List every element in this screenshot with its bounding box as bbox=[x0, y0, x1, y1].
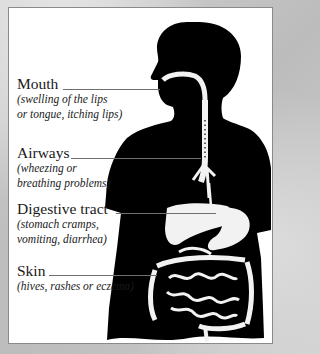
label-mouth-title: Mouth bbox=[17, 75, 122, 92]
rectum-shape bbox=[205, 326, 207, 342]
label-mouth-description: (swelling of the lips or tongue, itching… bbox=[17, 92, 122, 122]
label-digestive-tract: Digestive tract (stomach cramps, vomitin… bbox=[17, 200, 108, 247]
label-airways: Airways (wheezing or breathing problems) bbox=[17, 144, 110, 191]
label-digestive-tract-title: Digestive tract bbox=[17, 200, 108, 217]
diagram-panel: Mouth (swelling of the lips or tongue, i… bbox=[8, 7, 273, 344]
label-airways-title: Airways bbox=[17, 144, 110, 161]
label-mouth: Mouth (swelling of the lips or tongue, i… bbox=[17, 75, 122, 122]
label-airways-description: (wheezing or breathing problems) bbox=[17, 161, 110, 191]
label-digestive-tract-description: (stomach cramps, vomiting, diarrhea) bbox=[17, 217, 108, 247]
digestive-tract-leader-line bbox=[116, 213, 216, 214]
label-skin-title: Skin bbox=[17, 262, 134, 279]
label-skin-description: (hives, rashes or eczema) bbox=[17, 279, 134, 294]
label-skin: Skin (hives, rashes or eczema) bbox=[17, 262, 134, 294]
